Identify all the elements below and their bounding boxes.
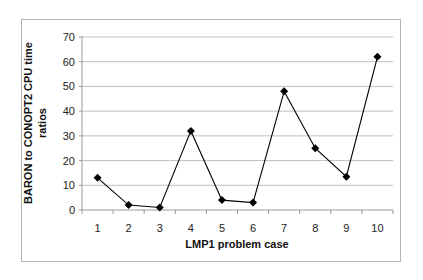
y-axis-tick-labels: 010203040506070: [63, 31, 75, 216]
y-tick-label: 30: [63, 130, 75, 142]
x-axis-tick-labels: 12345678910: [94, 222, 383, 234]
x-tick-label: 9: [343, 222, 349, 234]
data-series: [94, 53, 382, 212]
y-tick-label: 50: [63, 80, 75, 92]
y-tick-label: 40: [63, 105, 75, 117]
y-tick-label: 70: [63, 31, 75, 43]
x-tick-label: 6: [250, 222, 256, 234]
diamond-marker: [187, 127, 195, 135]
diamond-marker: [218, 196, 226, 204]
y-tick-label: 20: [63, 155, 75, 167]
y-tick-label: 0: [69, 204, 75, 216]
diamond-marker: [373, 53, 381, 61]
y-axis-title-line: ratios: [36, 108, 48, 138]
gridlines: [82, 37, 393, 185]
x-tick-label: 8: [312, 222, 318, 234]
y-axis-title-line: BARON to CONOPT2 CPU time: [22, 42, 34, 204]
x-tick-label: 2: [126, 222, 132, 234]
y-tick-label: 10: [63, 179, 75, 191]
x-tick-label: 1: [94, 222, 100, 234]
x-axis-title: LMP1 problem case: [185, 238, 288, 250]
y-tick-label: 60: [63, 56, 75, 68]
line-chart: 010203040506070 12345678910 LMP1 problem…: [0, 0, 423, 280]
x-tick-label: 5: [219, 222, 225, 234]
x-tick-label: 4: [188, 222, 194, 234]
x-tick-label: 10: [371, 222, 383, 234]
axes: [79, 36, 393, 214]
diamond-marker: [280, 87, 288, 95]
diamond-marker: [249, 199, 257, 207]
y-axis-title: BARON to CONOPT2 CPU timeratios: [22, 42, 48, 204]
x-tick-label: 7: [281, 222, 287, 234]
x-tick-label: 3: [157, 222, 163, 234]
